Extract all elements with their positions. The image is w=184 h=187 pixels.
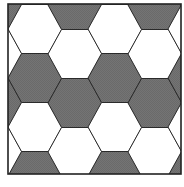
shaded-hexagon <box>128 177 182 187</box>
hexagon-tiling-diagram <box>0 0 184 186</box>
shaded-hexagon <box>48 177 102 187</box>
shaded-hexagon <box>0 177 22 187</box>
hexagon-cells <box>0 0 184 186</box>
